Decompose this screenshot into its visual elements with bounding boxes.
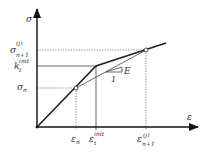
bilinear-curve [37,43,166,127]
svg-text:(j): (j) [143,131,150,139]
svg-text:n+1: n+1 [142,140,155,147]
svg-text:init: init [94,130,105,137]
y-label-sigma-n1-j: σ (j) n+1 [10,39,29,58]
point-sigma-n [74,86,78,90]
x-label-eps-n1-j: ε (j) n+1 [137,131,155,147]
svg-text:t: t [19,66,22,73]
svg-text:n: n [76,138,80,145]
y-label-kt-init: k init t [14,57,30,73]
origin-dot [36,126,39,129]
stress-strain-diagram: 1 E σ ε σ (j) n+1 k init t σ n ε n ε ini… [0,0,209,155]
svg-text:t: t [94,139,97,146]
svg-text:init: init [19,57,30,64]
x-label-eps-n: ε n [71,134,80,145]
svg-text:(j): (j) [16,39,23,47]
x-axis-label: ε [187,112,192,122]
x-label-eps-t-init: ε init t [89,130,105,146]
y-label-sigma-n: σ n [17,82,27,93]
y-axis-label: σ [26,14,33,24]
point-sigma-n1-j [144,48,148,52]
slope-rise-label: E [123,66,131,76]
slope-run-label: 1 [111,75,116,84]
svg-text:n: n [23,86,27,93]
guide-lines [37,50,146,130]
